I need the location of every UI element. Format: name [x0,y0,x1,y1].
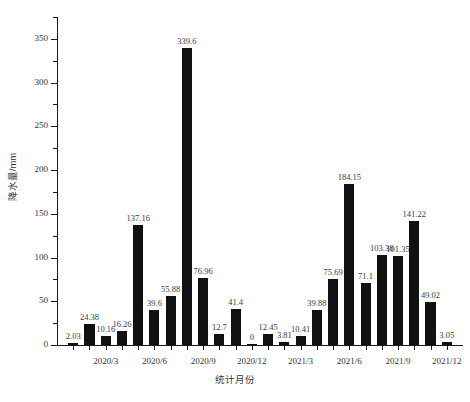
bar [442,342,452,345]
bar-value-label: 3.05 [427,331,467,340]
bar-value-label: 41.4 [216,298,256,307]
bar [279,342,289,345]
precipitation-bar-chart: 050100150200250300350 降水量/mm 2020/32020/… [0,0,470,402]
bar-value-label: 141.22 [394,210,434,219]
bar-value-label: 49.02 [411,291,451,300]
bar [101,336,111,345]
bar [312,310,322,345]
bar [68,343,78,345]
bar-value-label: 137.16 [118,214,158,223]
bar [328,279,338,345]
bar [182,48,192,345]
bar [344,184,354,345]
bar [117,331,127,345]
bar [296,336,306,345]
bars-layer: 2.0324.3810.1616.26137.1639.655.88339.67… [0,0,470,402]
bar [361,283,371,345]
bar [198,278,208,345]
bar [393,256,403,345]
bar-value-label: 339.6 [167,37,207,46]
bar [149,310,159,345]
bar [133,225,143,345]
bar [377,255,387,345]
bar [214,334,224,345]
bar-value-label: 184.15 [329,173,369,182]
bar [409,221,419,345]
bar-value-label: 76.96 [183,267,223,276]
bar [247,344,257,345]
bar [166,296,176,345]
